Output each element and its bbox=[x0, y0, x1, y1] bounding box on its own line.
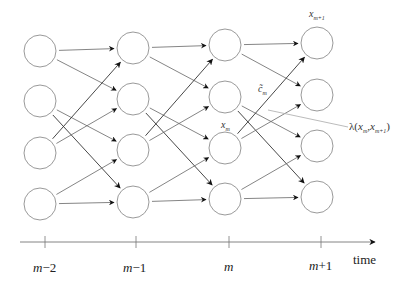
transition-edge bbox=[244, 197, 298, 198]
trellis-canvas bbox=[0, 0, 413, 289]
transition-edge bbox=[56, 160, 116, 195]
transition-edge bbox=[59, 49, 114, 51]
tick-label-m-minus-2: m−2 bbox=[33, 261, 56, 274]
label-lambda-transition: λ(xm,xm+1) bbox=[349, 121, 390, 134]
tick-label-m-plus-1: m+1 bbox=[309, 259, 332, 272]
transition-edge bbox=[149, 158, 208, 193]
transition-edge bbox=[241, 155, 300, 189]
transition-edge bbox=[152, 200, 206, 202]
state-node bbox=[209, 81, 241, 113]
transition-edge bbox=[241, 104, 300, 138]
transition-edge bbox=[53, 62, 121, 139]
transition-edge bbox=[56, 109, 116, 144]
label-x-m: xm bbox=[221, 120, 230, 132]
state-node bbox=[24, 137, 56, 169]
state-node bbox=[117, 134, 149, 166]
label-c-tilde-m: c̃m bbox=[258, 84, 267, 96]
time-axis bbox=[20, 236, 375, 248]
tick-label-m: m bbox=[224, 260, 233, 273]
state-node bbox=[117, 186, 149, 218]
state-node bbox=[301, 27, 333, 59]
transition-edge bbox=[238, 57, 305, 133]
transition-edge bbox=[59, 202, 114, 203]
state-node bbox=[117, 32, 149, 64]
state-node bbox=[24, 85, 56, 117]
transition-edge bbox=[57, 110, 116, 141]
tick-label-m-minus-1: m−1 bbox=[123, 261, 146, 274]
axis-label-time: time bbox=[353, 253, 376, 266]
state-node bbox=[209, 183, 241, 215]
transition-edges bbox=[53, 43, 305, 203]
lambda-leader-line bbox=[268, 110, 348, 127]
state-node bbox=[117, 83, 149, 115]
state-node bbox=[209, 132, 241, 164]
state-node bbox=[24, 35, 56, 67]
state-node bbox=[24, 188, 56, 220]
state-node bbox=[209, 29, 241, 61]
transition-edge bbox=[244, 43, 298, 44]
transition-edge bbox=[150, 57, 208, 88]
transition-edge bbox=[152, 46, 206, 48]
state-node bbox=[301, 181, 333, 213]
transition-edge bbox=[242, 54, 301, 86]
trellis-diagram: m−2 m−1 m m+1 time xm+1 xm c̃m λ(xm,xm+1… bbox=[0, 0, 413, 289]
transition-edge bbox=[149, 106, 208, 140]
transition-edge bbox=[57, 60, 116, 91]
label-x-m-plus-1: xm+1 bbox=[309, 9, 325, 21]
state-node bbox=[301, 79, 333, 111]
transition-edge bbox=[146, 59, 213, 135]
state-node bbox=[301, 130, 333, 162]
